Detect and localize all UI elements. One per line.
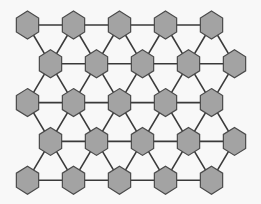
hexagon-node-r4-c5 (223, 127, 245, 155)
hexagon-node-r2-c1 (39, 50, 61, 78)
hexagon-node-r1-c5 (200, 11, 222, 39)
hexagon-node-r1-c1 (16, 11, 38, 39)
hexagon-node-r5-c4 (154, 166, 176, 194)
hexagon-node-r2-c2 (85, 50, 107, 78)
hexagon-node-r3-c3 (108, 89, 130, 117)
hexagon-node-r1-c3 (108, 11, 130, 39)
hexagon-node-r4-c1 (39, 127, 61, 155)
hexagon-node-r1-c2 (62, 11, 84, 39)
hexagon-node-r1-c4 (154, 11, 176, 39)
hexagon-node-r5-c5 (200, 166, 222, 194)
hexagon-node-r5-c1 (16, 166, 38, 194)
hexagon-node-r2-c3 (131, 50, 153, 78)
hexagon-node-r5-c2 (62, 166, 84, 194)
hexagon-node-r5-c3 (108, 166, 130, 194)
hexagon-node-r3-c5 (200, 89, 222, 117)
hexagon-node-r4-c2 (85, 127, 107, 155)
hexagon-node-r4-c4 (177, 127, 199, 155)
hexagon-node-r4-c3 (131, 127, 153, 155)
hexagon-node-r3-c2 (62, 89, 84, 117)
hexagon-node-r2-c5 (223, 50, 245, 78)
hexagon-node-r3-c4 (154, 89, 176, 117)
hexagon-node-r2-c4 (177, 50, 199, 78)
hexagon-node-r3-c1 (16, 89, 38, 117)
hexagon-lattice-diagram (0, 0, 261, 204)
